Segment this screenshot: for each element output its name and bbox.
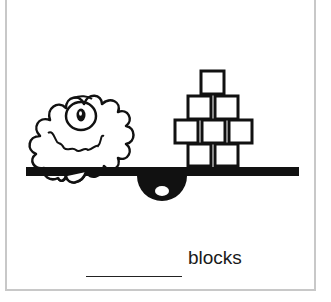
fulcrum-icon <box>137 176 187 201</box>
unit-label: blocks <box>188 247 242 269</box>
block-icon <box>229 120 252 143</box>
block-icon <box>175 120 198 143</box>
block-icon <box>215 96 238 119</box>
answer-blank[interactable] <box>86 276 182 277</box>
block-stack-icon <box>175 71 252 166</box>
balance-scene <box>0 0 331 302</box>
block-icon <box>202 120 225 143</box>
block-icon <box>188 96 211 119</box>
block-icon <box>201 71 224 94</box>
block-icon <box>215 144 238 166</box>
block-icon <box>188 144 211 166</box>
